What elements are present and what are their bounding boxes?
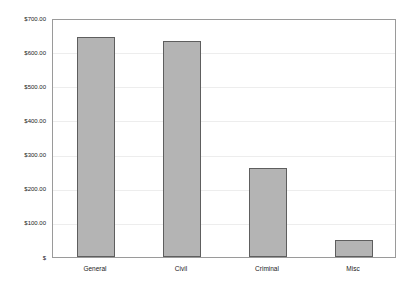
y-axis-tick-label: $700.00 (0, 16, 46, 23)
x-axis-tick-label: Misc (310, 265, 396, 273)
plot-area (52, 19, 396, 258)
x-axis-tick-label: Civil (138, 265, 224, 273)
y-axis-tick-label: $600.00 (0, 50, 46, 57)
bar-civil (163, 41, 201, 257)
bar-criminal (249, 168, 287, 257)
bar-chart: $$100.00$200.00$300.00$400.00$500.00$600… (0, 0, 413, 286)
y-axis-tick-label: $500.00 (0, 84, 46, 91)
bar-misc (335, 240, 373, 257)
y-axis-tick-label: $ (0, 255, 46, 262)
x-axis-tick-label: Criminal (224, 265, 310, 273)
bar-general (77, 37, 115, 257)
y-axis-tick-label: $400.00 (0, 118, 46, 125)
y-axis-tick-label: $300.00 (0, 152, 46, 159)
y-axis-tick-label: $100.00 (0, 220, 46, 227)
y-axis-tick-label: $200.00 (0, 186, 46, 193)
x-axis-tick-label: General (52, 265, 138, 273)
